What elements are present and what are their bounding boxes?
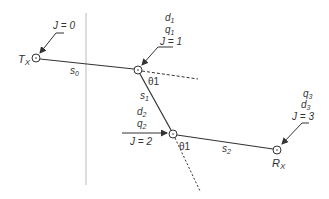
j3-label: J = 3 bbox=[291, 111, 314, 122]
signal-path-diagram: TX RX J = 0 d1 q1 J = 1 d2 q2 J = 2 q3 d… bbox=[0, 0, 329, 199]
arrow-j0-icon bbox=[40, 33, 64, 53]
q2-label: q2 bbox=[137, 118, 147, 130]
s1-label: s1 bbox=[140, 90, 149, 102]
rx-label: RX bbox=[272, 157, 286, 171]
d3-label: d3 bbox=[301, 99, 311, 111]
node-j1 bbox=[134, 66, 142, 74]
q1-label: q1 bbox=[165, 24, 175, 36]
theta1-label-n1: θ1 bbox=[148, 76, 160, 87]
d1-label: d1 bbox=[165, 12, 175, 24]
j1-label: J = 1 bbox=[159, 36, 182, 47]
node-rx bbox=[273, 146, 281, 154]
node-j2 bbox=[169, 130, 177, 138]
d2-label: d2 bbox=[137, 106, 147, 118]
theta1-label-n2: θ1 bbox=[179, 141, 191, 152]
segment-s0-line bbox=[40, 59, 134, 69]
s0-label: s0 bbox=[70, 65, 79, 77]
arrow-j3-icon bbox=[282, 123, 309, 144]
node-tx bbox=[32, 54, 40, 62]
j2-label: J = 2 bbox=[129, 136, 152, 147]
s2-label: s2 bbox=[222, 143, 231, 155]
tx-label: TX bbox=[18, 53, 31, 67]
arrow-j1-icon bbox=[142, 47, 173, 65]
j0-label: J = 0 bbox=[52, 20, 75, 31]
